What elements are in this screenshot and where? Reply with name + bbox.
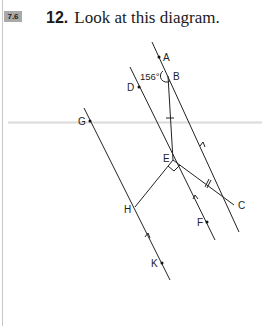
point-d-dot [138, 86, 141, 89]
label-k: K [151, 258, 158, 269]
label-f: F [197, 217, 203, 228]
label-h: H [124, 204, 131, 215]
label-e: E [163, 153, 170, 164]
label-g: G [78, 116, 86, 127]
label-angle-156: 156° [140, 71, 160, 82]
segment-eh [135, 160, 173, 207]
label-b: B [173, 71, 180, 82]
parallel-arrow-abc [200, 142, 205, 147]
point-k-dot [161, 262, 164, 265]
line-abc [152, 42, 239, 232]
point-f-dot [206, 221, 209, 224]
point-g-dot [89, 120, 92, 123]
parallel-arrow-def [193, 195, 198, 199]
label-d: D [127, 82, 134, 93]
line-ghk [84, 108, 170, 280]
label-a: A [163, 52, 170, 63]
geometry-diagram: A B 156° D G E C H F K [0, 0, 262, 326]
label-c: C [238, 200, 245, 211]
point-a-dot [158, 56, 161, 59]
segment-ec [173, 160, 234, 205]
